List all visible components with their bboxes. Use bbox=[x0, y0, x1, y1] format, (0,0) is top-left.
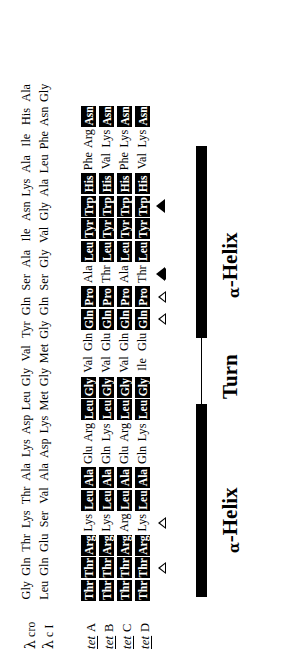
contact-marker-layer bbox=[0, 0, 292, 653]
contact-marker-open bbox=[158, 291, 166, 303]
contact-marker-open bbox=[158, 517, 166, 529]
contact-marker-open bbox=[158, 313, 166, 325]
secondary-structure-helix-2 bbox=[196, 146, 207, 338]
helix-1-label-text: -Helix bbox=[218, 487, 242, 542]
sequence-alignment-figure: λcro λc I tetA tetB tetC tetD GlyGlnThrL… bbox=[0, 0, 292, 653]
contact-marker-open bbox=[158, 562, 166, 574]
helix-2-label-text: -Helix bbox=[218, 232, 242, 287]
secondary-structure-label-helix-2: α-Helix bbox=[218, 232, 243, 298]
secondary-structure-label-turn: Turn bbox=[218, 354, 243, 399]
alpha-glyph-helix-1: α bbox=[226, 542, 242, 553]
contact-marker-filled bbox=[156, 267, 165, 281]
contact-marker-filled bbox=[156, 199, 165, 213]
turn-label-text: Turn bbox=[218, 354, 242, 399]
secondary-structure-turn bbox=[201, 338, 203, 404]
figure-rotation-wrapper: λcro λc I tetA tetB tetC tetD GlyGlnThrL… bbox=[0, 0, 292, 653]
secondary-structure-label-helix-1: α-Helix bbox=[218, 487, 243, 553]
alpha-glyph-helix-2: α bbox=[226, 287, 242, 298]
secondary-structure-helix-1 bbox=[196, 404, 207, 597]
